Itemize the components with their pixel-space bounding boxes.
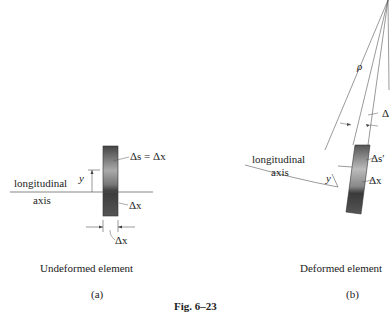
deformed-element [346,145,370,214]
figure-caption: Fig. 6–23 [174,300,217,312]
deformed-longitudinal-axis [245,165,338,187]
label-delta-s-equals-delta-x: Δs = Δx [130,150,166,162]
label-y-b: y [326,172,331,184]
panel-a-tag: (a) [91,288,103,300]
label-delta-x-right: Δx [129,199,142,211]
label-axis-a: axis [33,194,51,206]
label-delta-x-bottom: Δx [115,234,128,246]
label-longitudinal-a: longitudinal [14,177,67,189]
label-longitudinal-b: longitudinal [252,153,305,165]
panel-a-title: Undeformed element [40,262,133,274]
radius-line-outer [325,0,388,150]
panel-b-title: Deformed element [300,262,382,274]
radius-line-left [353,0,388,145]
undeformed-element [103,146,118,216]
panel-b-deformed [245,0,389,214]
panel-b-tag: (b) [346,288,359,300]
radius-line-right [368,0,388,145]
label-delta-x-b: Δx [369,174,382,186]
label-delta-theta: Δ [382,107,389,119]
label-rho: ρ [357,60,362,72]
label-y-a: y [79,172,84,184]
label-delta-s-prime: Δs′ [371,152,385,164]
label-axis-b: axis [271,166,289,178]
